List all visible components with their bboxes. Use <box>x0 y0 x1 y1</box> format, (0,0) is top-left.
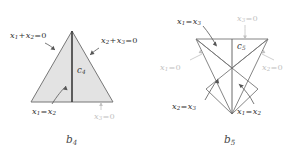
label-lower-left-equation-b5: x2=x3 <box>172 102 196 112</box>
label-cell-c4: c4 <box>77 66 86 76</box>
arrow-right-edge-head-b4 <box>90 50 95 55</box>
lbl-s1: 4 <box>82 69 86 75</box>
arrow-base-head-b4 <box>99 102 103 106</box>
label-median-equation-b4: x1=x2 <box>32 107 56 117</box>
caption-b5: b5 <box>224 134 235 146</box>
lbl-op: + <box>18 30 25 40</box>
figure-svg <box>0 0 299 160</box>
label-base-equation-b4: x3=0 <box>94 112 115 122</box>
label-left-edge-equation-b4: x1+x2=0 <box>10 31 47 41</box>
arrow-lower-right-head-b5 <box>239 84 244 88</box>
figure-root: x1+x2=0 x2+x3=0 x1=x2 x3=0 c4 b4 x1=x3 x… <box>0 0 299 160</box>
lbl-op: = <box>245 106 252 116</box>
lbl-tail: =0 <box>102 111 115 121</box>
lbl-tail: =0 <box>125 35 138 45</box>
label-lower-right-equation-b5: x1=x2 <box>237 107 261 117</box>
label-right-edge-equation-b4: x2+x3=0 <box>101 36 138 46</box>
caption-letter: b <box>66 133 73 145</box>
lbl-op: + <box>109 35 116 45</box>
lbl-tail: =0 <box>168 62 181 72</box>
lbl-tail: =0 <box>245 13 258 23</box>
lbl-tail: =0 <box>34 30 47 40</box>
lbl-op: = <box>40 106 47 116</box>
caption-sub: 5 <box>231 138 236 147</box>
label-upper-left-equation-b5: x1=x3 <box>177 17 201 27</box>
caption-letter: b <box>224 133 231 145</box>
arrow-left-b5 <box>190 54 202 60</box>
label-upper-right-equation-b5: x3=0 <box>237 14 258 24</box>
left-side-b5 <box>196 39 232 114</box>
lbl-op: = <box>180 101 187 111</box>
label-cell-c5: c5 <box>237 42 246 52</box>
arrow-right-b5 <box>262 54 274 60</box>
tail-left-b5 <box>206 89 232 114</box>
lbl-op: = <box>185 16 192 26</box>
lbl-tail: =0 <box>270 62 283 72</box>
panel-b5-geometry <box>196 39 268 114</box>
label-right-equation-b5: x2=0 <box>262 63 283 73</box>
caption-sub: 4 <box>73 138 78 147</box>
label-left-equation-b5: x1=0 <box>160 63 181 73</box>
arrow-upper-left-b5 <box>203 26 216 45</box>
caption-b4: b4 <box>66 134 77 146</box>
lbl-s1: 5 <box>242 45 246 51</box>
